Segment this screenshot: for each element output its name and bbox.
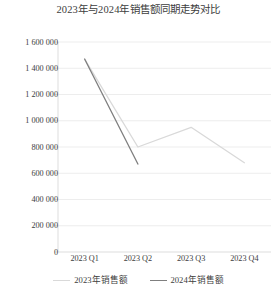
legend-line-swatch-icon bbox=[150, 280, 167, 281]
legend-label: 2024年销售额 bbox=[171, 275, 224, 285]
y-axis-tick-label: 1 000 000 bbox=[2, 116, 58, 125]
x-axis-tick-label: 2023 Q4 bbox=[216, 254, 272, 264]
legend-label: 2023年销售额 bbox=[74, 275, 127, 285]
y-axis-tick-label: 600 000 bbox=[2, 169, 58, 178]
y-axis-tick-label: 1 400 000 bbox=[2, 64, 58, 73]
y-axis-tick-label: 0 bbox=[2, 248, 58, 257]
legend-item-2[interactable]: 2024年销售额 bbox=[150, 275, 224, 285]
x-axis-tick-label: 2023 Q3 bbox=[163, 254, 219, 264]
x-axis-tick-label: 2023 Q2 bbox=[110, 254, 166, 264]
series-line-2 bbox=[85, 59, 138, 164]
y-axis-tick-label: 800 000 bbox=[2, 143, 58, 152]
x-axis-tick-label: 2023 Q1 bbox=[57, 254, 113, 264]
y-axis-tick-label: 200 000 bbox=[2, 221, 58, 230]
y-axis-tick-label: 1 200 000 bbox=[2, 90, 58, 99]
sales-trend-line-chart: 2023年与2024年销售额同期走势对比 0200 000400 000600 … bbox=[0, 0, 277, 301]
legend-line-swatch-icon bbox=[53, 280, 70, 281]
data-series bbox=[85, 59, 245, 164]
legend-item-1[interactable]: 2023年销售额 bbox=[53, 275, 127, 285]
chart-legend: 2023年销售额2024年销售额 bbox=[0, 272, 277, 288]
y-axis-tick-label: 1 600 000 bbox=[2, 38, 58, 47]
y-axis-tick-label: 400 000 bbox=[2, 195, 58, 204]
